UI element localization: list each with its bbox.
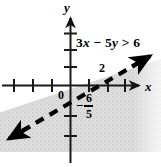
inequality-var-x: x [83, 35, 90, 50]
fraction-numerator: 6 [85, 92, 93, 105]
inequality-var-y: y [112, 35, 118, 50]
y-axis-label: y [64, 1, 70, 14]
x-intercept-label: 2 [99, 62, 105, 74]
inequality-coef-y: 5 [105, 35, 112, 50]
inequality-label: 3x − 5y > 6 [76, 36, 140, 50]
x-axis-label: x [145, 80, 152, 93]
y-intercept-label: − 6 5 [76, 92, 93, 120]
inequality-constant: 6 [133, 35, 140, 50]
origin-label: 0 [58, 89, 64, 101]
coordinate-plane-svg [0, 0, 161, 167]
y-intercept-fraction: 6 5 [84, 92, 93, 120]
inequality-graph-figure: y x 0 2 3x − 5y > 6 − 6 5 [0, 0, 161, 167]
fraction-denominator: 5 [85, 107, 93, 120]
y-intercept-sign: − [76, 99, 83, 112]
inequality-minus: − [93, 35, 101, 50]
inequality-coef-x: 3 [76, 35, 83, 50]
inequality-relation: > [122, 35, 130, 50]
